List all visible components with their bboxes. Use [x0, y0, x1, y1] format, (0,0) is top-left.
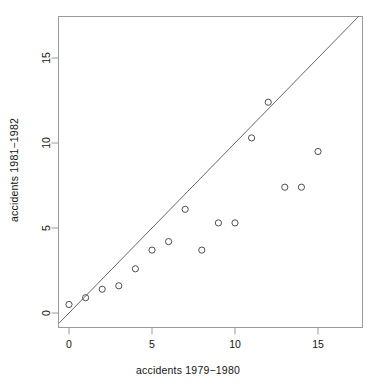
data-point	[99, 286, 105, 292]
data-point	[249, 135, 255, 141]
data-point	[199, 247, 205, 253]
plot-frame	[59, 17, 363, 328]
data-point	[166, 239, 172, 245]
reference-line	[59, 17, 358, 324]
y-axis-tick-labels: 051015	[40, 52, 52, 316]
x-axis-title: accidents 1979−1980	[0, 364, 376, 376]
y-axis-ticks	[52, 58, 59, 313]
plot-canvas: 051015 051015	[0, 0, 376, 388]
data-point	[232, 220, 238, 226]
x-tick-label-15: 15	[312, 338, 324, 350]
data-points	[66, 99, 321, 308]
x-tick-label-0: 0	[66, 338, 72, 350]
y-tick-label-10: 10	[40, 137, 52, 149]
y-tick-label-5: 5	[40, 225, 52, 231]
data-point	[265, 99, 271, 105]
data-point	[315, 148, 321, 154]
y-axis-title-wrapper: accidents 1981−1982	[0, 0, 28, 340]
data-point	[215, 220, 221, 226]
x-tick-label-5: 5	[149, 338, 155, 350]
scatter-plot: 051015 051015 accidents 1981−1982 accide…	[0, 0, 376, 388]
y-tick-label-0: 0	[40, 310, 52, 316]
data-point	[132, 266, 138, 272]
x-tick-label-10: 10	[229, 338, 241, 350]
data-point	[282, 184, 288, 190]
identity-reference-line	[59, 17, 358, 324]
data-point	[116, 283, 122, 289]
x-axis-tick-labels: 051015	[66, 338, 324, 350]
data-point	[182, 206, 188, 212]
y-tick-label-15: 15	[40, 52, 52, 64]
y-axis-title: accidents 1981−1982	[8, 118, 20, 222]
data-point	[298, 184, 304, 190]
x-axis-ticks	[69, 328, 318, 335]
data-point	[149, 247, 155, 253]
data-point	[66, 301, 72, 307]
